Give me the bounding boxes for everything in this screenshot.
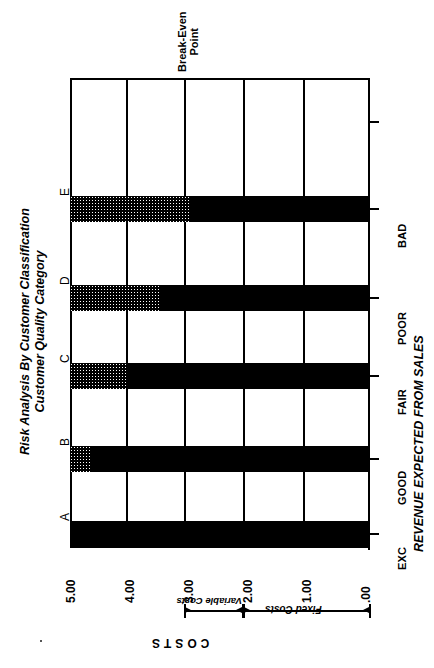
bar-code-A: A [58,513,72,521]
page-title-line1: Risk Analysis By Customer Classification [18,208,32,455]
gridline-1 [303,80,305,546]
cat-tick-B [370,458,379,460]
cat-label-good: GOOD [396,471,408,505]
bar-B [70,446,370,472]
cat-tick-E [370,208,379,210]
cat-tick-D [370,297,379,299]
variable-bracket-line [184,610,243,612]
bar-C [70,363,370,389]
break-even-line1: Break-Even [176,11,188,72]
break-even-line2: Point [188,28,200,56]
chart-page: { "chart_data": { "type": "bar", "orient… [0,0,434,668]
cat-label-bad: BAD [396,224,408,248]
bar-D [70,285,370,311]
bar-code-D: D [58,276,72,285]
value-tick-000: .00 [359,586,373,603]
fixed-bracket-label: Fixed Costs [265,604,322,615]
bar-B-variable-segment [70,446,92,472]
cat-label-poor: POOR [396,312,408,345]
scan-speck [40,640,42,642]
bar-code-E: E [58,188,72,196]
bar-C-fixed-segment [126,363,370,389]
cat-tick-C [370,375,379,377]
bar-code-C: C [58,354,72,363]
plot-area [70,78,370,548]
bar-E [70,196,370,222]
break-even-annotation: Break-Even Point [176,11,200,72]
bar-A-fixed-segment [70,521,370,547]
cat-label-exc: EXC [396,547,408,570]
cat-tick-A [370,533,379,535]
page-title-line2: Customer Quality Category [33,251,47,413]
value-tick-100: 1.00 [300,580,314,603]
category-axis [368,78,370,550]
fixed-bracket-arrow-right [363,607,369,613]
costs-axis-label: COSTS [148,636,209,650]
fixed-bracket-cap-right [369,604,371,618]
page-title: Risk Analysis By Customer Classification… [18,208,48,455]
revenue-axis-title: REVENUE EXPECTED FROM SALES [412,335,426,552]
value-tick-500: 5.00 [64,580,78,603]
bar-D-fixed-segment [160,285,370,311]
gridline-2 [243,80,245,546]
variable-bracket-label-line1: Variable Costs [186,596,242,606]
value-tick-200: 2.00 [241,580,255,603]
bar-E-variable-segment [70,196,190,222]
bar-D-variable-segment [70,285,160,311]
cat-label-fair: FAIR [396,389,408,415]
bar-code-B: B [58,438,72,446]
fixed-bracket-arrow-left [244,607,250,613]
variable-bracket-arrow-right [236,607,242,613]
cat-tick-5 [370,121,379,123]
bar-C-variable-segment [70,363,126,389]
gridline-4 [126,80,128,546]
bar-A [70,521,370,547]
gridline-3 [184,80,186,546]
value-tick-400: 4.00 [123,580,137,603]
variable-bracket-arrow-left [185,607,191,613]
bar-B-fixed-segment [92,446,370,472]
bar-E-fixed-segment [190,196,370,222]
